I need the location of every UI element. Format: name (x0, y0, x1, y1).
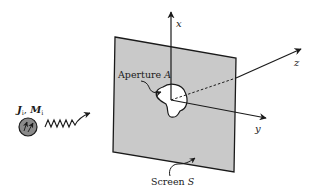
screen-label: Screen S (151, 176, 195, 187)
source-label: Ji, Mi (15, 104, 43, 117)
x-axis-label: x (176, 18, 182, 29)
z-axis (236, 49, 301, 78)
aperture-label: Aperture A (117, 69, 171, 80)
z-axis-label: z (293, 57, 300, 68)
diffraction-diagram: x z y Aperture A Screen S Ji, Mi (0, 0, 317, 195)
y-axis-label: y (254, 123, 261, 134)
source-icon (19, 118, 37, 136)
wave-icon (45, 113, 90, 127)
